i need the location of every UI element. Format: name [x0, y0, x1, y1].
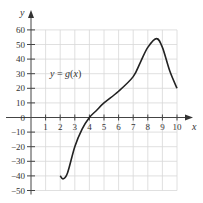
x-axis-label: x — [191, 121, 197, 132]
x-tick-label: 1 — [43, 122, 48, 132]
y-tick-label: −30 — [11, 156, 26, 166]
y-tick-label: 30 — [16, 69, 26, 79]
function-label: y = g(x) — [49, 68, 81, 80]
y-tick-label: 0 — [21, 113, 26, 123]
x-tick-label: 2 — [58, 122, 63, 132]
y-tick-label: −10 — [11, 127, 26, 137]
x-tick-label: 10 — [173, 122, 183, 132]
y-tick-label: 10 — [16, 98, 26, 108]
y-tick-label: −20 — [11, 142, 26, 152]
x-tick-label: 6 — [116, 122, 121, 132]
x-tick-label: 5 — [102, 122, 107, 132]
x-tick-label: 8 — [146, 122, 151, 132]
x-tick-label: 3 — [73, 122, 78, 132]
grid — [31, 30, 177, 191]
x-tick-label: 4 — [87, 122, 92, 132]
y-tick-label: −40 — [11, 171, 26, 181]
y-tick-label: 60 — [16, 25, 26, 35]
y-axis-arrow-icon — [28, 10, 34, 18]
x-tick-label: 9 — [160, 122, 165, 132]
y-tick-label: 50 — [16, 40, 26, 50]
y-axis-label: y — [19, 7, 25, 18]
y-tick-label: −50 — [11, 186, 26, 196]
x-tick-label: 7 — [131, 122, 136, 132]
y-tick-label: 40 — [16, 54, 26, 64]
y-tick-label: 20 — [16, 83, 26, 93]
axes — [6, 10, 193, 195]
line-chart: 123456789106050403020100−10−20−30−40−50 … — [0, 0, 203, 203]
